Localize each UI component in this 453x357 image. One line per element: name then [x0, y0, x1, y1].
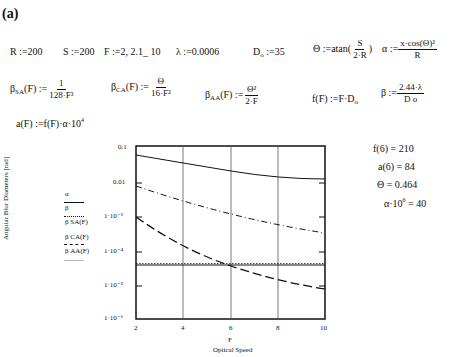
x-tick-2: 6	[229, 324, 233, 332]
x-tick-4: 10	[320, 324, 327, 332]
mathcad-worksheet: (a) R :=200 S :=200 F :=2, 2.1_ 10 λ :=0…	[0, 0, 453, 357]
x-axis-label: F	[228, 336, 232, 344]
x-tick-0: 2	[134, 324, 138, 332]
x-tick-1: 4	[181, 324, 185, 332]
x-tick-3: 8	[276, 324, 280, 332]
plot-area	[0, 0, 453, 357]
x-axis-sublabel: Optical Speed	[213, 346, 252, 354]
